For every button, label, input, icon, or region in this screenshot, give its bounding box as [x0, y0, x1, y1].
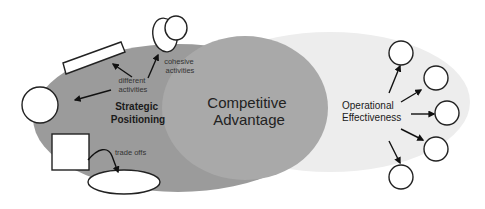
- different-activities-label: different activities: [118, 76, 147, 94]
- circle-activity-shape: [22, 87, 58, 123]
- trade-offs-label: trade offs: [115, 148, 146, 157]
- competitive-advantage-label: Competitive Advantage: [207, 94, 290, 128]
- operational-effectiveness-label: Operational Effectiveness: [342, 100, 401, 123]
- strategy-diagram: different activities cohesive activities…: [0, 0, 485, 209]
- square-activity-shape: [52, 134, 89, 170]
- cohesive-activities-label: cohesive activities: [164, 57, 196, 75]
- oval-activity-shape: [88, 170, 160, 194]
